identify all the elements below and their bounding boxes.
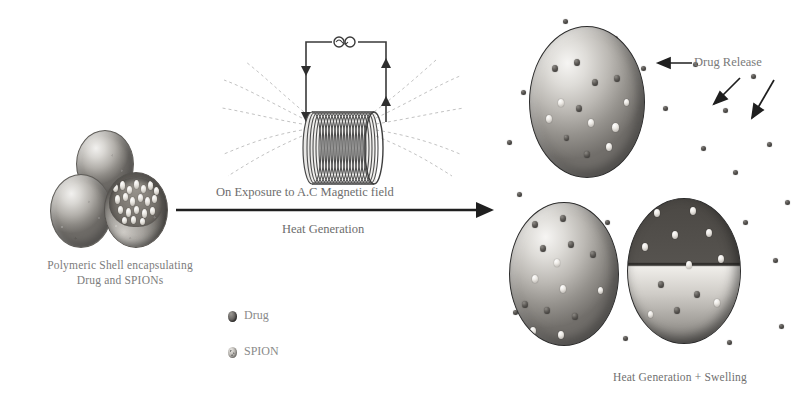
shell-cavity (109, 177, 163, 227)
released-drug-particle (521, 90, 526, 95)
released-drug-particle (605, 220, 610, 225)
released-drug-particle (727, 340, 732, 345)
solenoid-windings (303, 112, 383, 184)
figure-canvas: Polymeric Shell encapsulating Drug and S… (0, 0, 806, 403)
ac-source-icon (334, 37, 355, 47)
arrow-label-top: On Exposure to A.C Magnetic field (216, 185, 394, 200)
coil-svg (240, 22, 450, 182)
released-drug-particle (507, 140, 512, 145)
left-caption-line2: Drug and SPIONs (10, 273, 230, 288)
left-shell-cluster (48, 130, 188, 250)
shell-left (50, 174, 112, 248)
released-drug-particle (563, 19, 568, 24)
swollen-shell-bottom-left (509, 202, 619, 346)
left-caption-line1: Polymeric Shell encapsulating (10, 258, 230, 273)
legend-label-spion: SPION (244, 344, 279, 359)
released-drug-particle (785, 200, 790, 205)
drug-release-label: Drug Release (694, 55, 762, 70)
swollen-shell-top (529, 26, 645, 178)
legend: Drug SPION (228, 308, 368, 370)
released-drug-particle (743, 220, 748, 225)
arrow-label-bottom: Heat Generation (282, 222, 364, 237)
released-drug-particle (517, 192, 522, 197)
shell-cutaway (104, 172, 168, 248)
drug-marker-icon (228, 311, 237, 322)
released-drug-particle (779, 324, 784, 329)
legend-label-drug: Drug (244, 308, 269, 323)
right-caption: Heat Generation + Swelling (570, 370, 790, 385)
spion-marker-icon (228, 347, 237, 358)
transition-arrow (176, 200, 496, 222)
released-drug-particle (773, 258, 778, 263)
swollen-shell-bottom-right (627, 198, 741, 344)
transition-arrow-svg (176, 200, 496, 222)
coil-assembly (240, 22, 450, 182)
shell-texture (51, 175, 111, 247)
circuit-leads (306, 42, 386, 122)
released-drug-particle (733, 170, 738, 175)
released-drug-particle (623, 336, 628, 341)
